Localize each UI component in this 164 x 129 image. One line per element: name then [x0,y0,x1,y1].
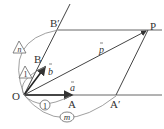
label-A-prime: A′ [110,98,120,110]
vector-p [24,31,146,95]
ratio-1-triangle: 1 [24,70,28,79]
ratio-1-bottom: 1 [43,101,48,111]
label-vector-p: p [98,44,104,55]
label-A: A [68,98,76,110]
line-Aprime-P [116,30,148,95]
label-vector-b: b [48,66,53,77]
label-B: B [34,53,41,65]
label-P: P [150,20,156,32]
label-B-prime: B′ [50,17,60,29]
ratio-m: m [64,112,71,122]
label-vector-a: a [70,82,75,93]
label-O: O [12,90,20,102]
ratio-n: n [18,45,22,54]
line-through-O-Bprime [24,4,70,95]
vector-diagram: 1 m 1 n O A A′ B B′ P a b p [0,0,164,129]
